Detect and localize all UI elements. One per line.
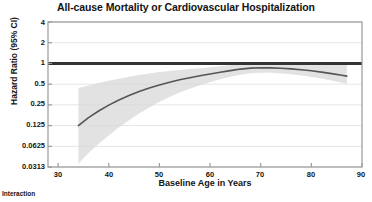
y-tick-label: 4: [41, 18, 45, 27]
y-tick-label: 0.0313: [22, 162, 45, 171]
confidence-band: [78, 62, 346, 164]
footnote-interaction: Interaction: [2, 190, 35, 197]
y-tick-label: 2: [41, 38, 45, 47]
y-tick-label: 0.5: [35, 79, 45, 88]
chart-title: All-cause Mortality or Cardiovascular Ho…: [0, 1, 372, 13]
x-axis-title: Baseline Age in Years: [48, 178, 362, 188]
y-tick-label: 1: [41, 58, 45, 67]
y-axis-tick-labels: 4 2 1 0.5 0.25 0.125 0.0625 0.0313: [0, 0, 45, 202]
y-tick-label: 0.125: [26, 120, 45, 129]
y-tick-label: 0.0625: [22, 141, 45, 150]
chart-container: All-cause Mortality or Cardiovascular Ho…: [0, 0, 372, 202]
y-tick-label: 0.25: [30, 99, 45, 108]
